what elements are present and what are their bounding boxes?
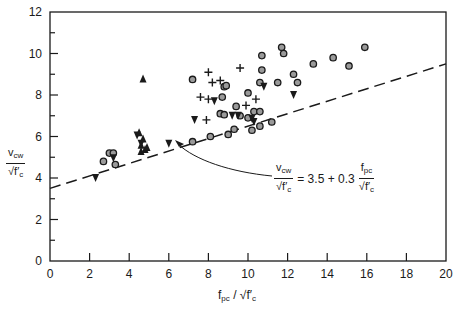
scatter-chart: 02468101214161820024681012 [0,0,460,310]
x-tick-label: 8 [205,267,212,281]
triangle-up-marker-icon [140,74,147,82]
x-tick-label: 6 [165,267,172,281]
x-tick-label: 0 [47,267,54,281]
circle-marker-icon [259,67,265,73]
eq-rhs-sub: pc [364,166,372,175]
triangle-down-marker-icon [290,91,297,99]
eq-lhs-den: √f′ [276,180,287,192]
x-tick-label: 2 [86,267,93,281]
annotation-arrow [178,144,272,176]
plus-marker-icon [242,101,250,109]
triangle-down-marker-icon [229,112,236,120]
eq-lhs-sub: cw [282,166,292,175]
axes [50,12,446,261]
circle-marker-icon [245,90,251,96]
circle-marker-icon [346,63,352,69]
eq-lhs-den-sub: c [287,185,291,194]
ticks: 02468101214161820024681012 [29,5,453,281]
circle-marker-icon [100,158,106,164]
circle-marker-icon [233,103,239,109]
circle-marker-icon [219,94,225,100]
x-tick-label: 20 [439,267,453,281]
y-tick-label: 8 [35,88,42,102]
circle-marker-icon [290,71,296,77]
circle-marker-icon [330,54,336,60]
y-tick-label: 6 [35,130,42,144]
y-axis-label: vcw √f′c [6,146,25,181]
plot-frame [50,12,446,261]
y-tick-label: 4 [35,171,42,185]
x-tick-label: 14 [321,267,335,281]
plus-marker-icon [196,93,204,101]
x-label-slash: / √f′ [230,288,252,302]
eq-rhs-den: √f′ [359,180,370,192]
eq-rhs-constant: = 3.5 + 0.3 [297,172,354,186]
x-label-sub: pc [221,294,229,303]
x-label-c-sub: c [252,294,256,303]
design-equation-line [50,64,446,189]
circle-marker-icon [189,76,195,82]
plus-marker-icon [204,95,212,103]
x-tick-label: 10 [241,267,255,281]
triangle-down-marker-icon [260,83,267,91]
plus-marker-icon [202,116,210,124]
circle-marker-icon [257,108,263,114]
circle-marker-icon [221,112,227,118]
x-tick-label: 12 [281,267,295,281]
circle-marker-icon [112,161,118,167]
eq-rhs-den-sub: c [370,185,374,194]
circle-marker-icon [259,52,265,58]
y-label-den-sub: c [19,170,23,179]
plus-marker-icon [204,68,212,76]
y-tick-label: 10 [29,47,43,61]
dashed-line [50,64,446,189]
x-tick-label: 4 [126,267,133,281]
equation-annotation: vcw √f′c = 3.5 + 0.3 fpc √f′c [274,161,374,196]
circle-marker-icon [257,123,263,129]
y-label-den: √f′ [8,165,19,177]
plus-marker-icon [252,95,260,103]
triangle-down-marker-icon [92,174,99,182]
triangle-down-marker-icon [191,116,198,124]
plus-marker-icon [236,64,244,72]
x-axis-label: fpc / √f′c [218,288,256,303]
plus-marker-icon [208,79,216,87]
circle-marker-icon [189,138,195,144]
circle-marker-icon [223,82,229,88]
circle-marker-icon [225,131,231,137]
circle-marker-icon [280,50,286,56]
y-tick-label: 0 [35,254,42,268]
circle-marker-icon [310,61,316,67]
x-tick-label: 18 [400,267,414,281]
circle-marker-icon [207,133,213,139]
y-tick-label: 2 [35,213,42,227]
x-tick-label: 16 [360,267,374,281]
circle-marker-icon [269,119,275,125]
y-tick-label: 12 [29,5,43,19]
circle-marker-icon [249,127,255,133]
triangle-down-marker-icon [165,140,172,148]
y-label-sub: cw [14,151,24,160]
circle-marker-icon [231,126,237,132]
circle-marker-icon [294,79,300,85]
circle-marker-icon [275,79,281,85]
circle-marker-icon [362,44,368,50]
circle-marker-icon [278,44,284,50]
triangle-down-marker-icon [211,97,218,105]
